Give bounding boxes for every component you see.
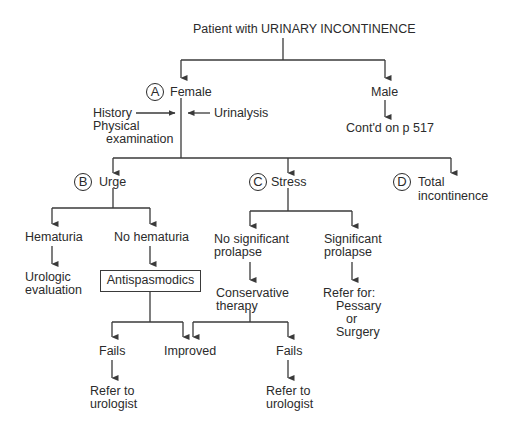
node-urge: Urge (99, 175, 126, 189)
node-refer-line2: Pessary (336, 299, 381, 313)
node-total-line1: Total (418, 175, 444, 189)
node-improved: Improved (164, 344, 216, 358)
node-refer-line3: or (346, 312, 357, 326)
node-prolapse-line1: Significant (324, 232, 382, 246)
node-female: Female (170, 85, 212, 99)
node-refer-line4: Surgery (336, 325, 380, 339)
workup-physical: Physical (93, 119, 140, 133)
marker-a: A (146, 83, 164, 101)
node-refer-line1: Refer for: (323, 286, 375, 300)
marker-b: B (74, 173, 92, 191)
node-stress: Stress (271, 175, 306, 189)
node-male-continued: Cont'd on p 517 (346, 121, 434, 135)
marker-d: D (393, 173, 411, 191)
node-prolapse-line2: prolapse (324, 245, 372, 259)
node-no-prolapse-line1: No significant (214, 232, 289, 246)
node-male: Male (371, 85, 398, 99)
flowchart-connectors (0, 0, 511, 433)
node-conservative-line1: Conservative (216, 286, 289, 300)
node-urge-fails: Fails (99, 344, 125, 358)
node-urologic-line2: evaluation (25, 283, 82, 297)
node-no-hematuria: No hematuria (114, 230, 189, 244)
workup-examination: examination (106, 132, 173, 146)
node-stress-refer-line1: Refer to (266, 384, 310, 398)
node-conservative-line2: therapy (216, 299, 258, 313)
node-urge-refer-line2: urologist (90, 397, 137, 411)
node-hematuria: Hematuria (25, 230, 83, 244)
node-stress-refer-line2: urologist (266, 397, 313, 411)
workup-urinalysis: Urinalysis (214, 106, 268, 120)
node-total-line2: incontinence (418, 189, 488, 203)
node-urologic-line1: Urologic (25, 270, 71, 284)
node-no-prolapse-line2: prolapse (214, 245, 262, 259)
node-urge-refer-line1: Refer to (90, 384, 134, 398)
root-node-title: Patient with URINARY INCONTINENCE (193, 22, 416, 36)
node-antispasmodics: Antispasmodics (100, 270, 201, 292)
marker-c: C (249, 173, 267, 191)
workup-history: History (93, 106, 132, 120)
node-stress-fails: Fails (276, 344, 302, 358)
